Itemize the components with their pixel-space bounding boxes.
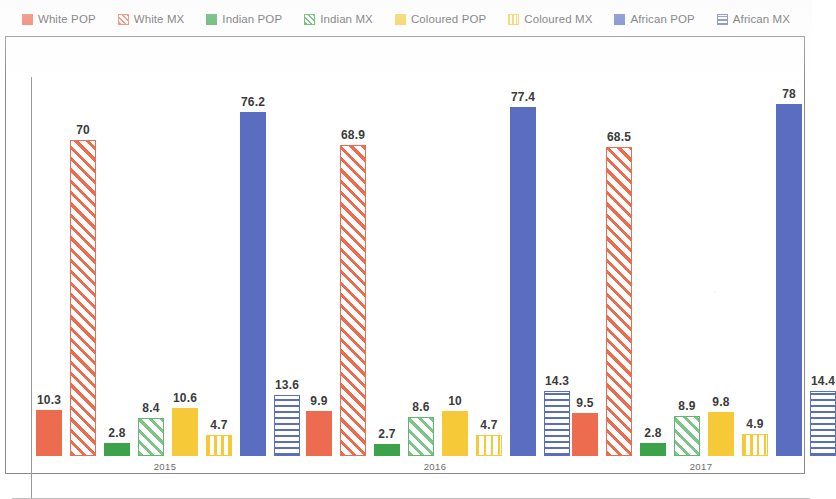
legend-item-indian-pop[interactable]: Indian POP (206, 13, 282, 25)
legend-swatch-solid-orange (22, 14, 33, 25)
bar-rect[interactable] (510, 107, 536, 456)
bar-rect[interactable] (544, 391, 570, 456)
bar-rect[interactable] (572, 413, 598, 456)
legend-item-label: African MX (733, 13, 790, 25)
legend-item-african-pop[interactable]: African POP (614, 13, 694, 25)
bar-coloured-mx-2015[interactable]: 4.7 (206, 36, 232, 456)
bar-coloured-mx-2016[interactable]: 4.7 (476, 36, 502, 456)
bar-indian-pop-2016[interactable]: 2.7 (374, 36, 400, 456)
bar-rect[interactable] (708, 412, 734, 456)
bar-rect[interactable] (674, 416, 700, 456)
bar-value-label: 10 (448, 394, 462, 408)
bar-rect[interactable] (810, 391, 836, 456)
bar-rect[interactable] (374, 444, 400, 456)
bar-rect[interactable] (742, 434, 768, 456)
bar-indian-pop-2015[interactable]: 2.8 (104, 36, 130, 456)
bar-rect[interactable] (104, 443, 130, 456)
bar-white-pop-2015[interactable]: 10.3 (36, 36, 62, 456)
bar-rect[interactable] (476, 435, 502, 456)
bar-rect[interactable] (340, 145, 366, 456)
bar-african-pop-2015[interactable]: 76.2 (240, 36, 266, 456)
y-axis-line (31, 77, 32, 499)
legend-item-indian-mx[interactable]: Indian MX (304, 13, 373, 25)
bar-value-label: 4.7 (210, 418, 227, 432)
bar-white-mx-2015[interactable]: 70 (70, 36, 96, 456)
bar-african-mx-2015[interactable]: 13.6 (274, 36, 300, 456)
legend-swatch-striped-yellow (508, 14, 519, 25)
bar-group-bars: 9.568.52.88.99.84.97814.4 (572, 36, 830, 456)
bar-rect[interactable] (776, 104, 802, 456)
bar-group-bars: 10.3702.88.410.64.776.213.6 (36, 36, 294, 456)
bar-value-label: 76.2 (241, 95, 265, 109)
legend-swatch-solid-yellow (395, 14, 406, 25)
bar-rect[interactable] (306, 411, 332, 456)
legend-item-white-pop[interactable]: White POP (22, 13, 96, 25)
bar-value-label: 4.9 (746, 417, 763, 431)
bar-value-label: 77.4 (511, 90, 535, 104)
bar-african-mx-2016[interactable]: 14.3 (544, 36, 570, 456)
bar-rect[interactable] (442, 411, 468, 456)
bar-value-label: 68.9 (341, 128, 365, 142)
bar-african-pop-2016[interactable]: 77.4 (510, 36, 536, 456)
legend-item-label: Coloured MX (524, 13, 592, 25)
x-axis-tick-2017: 2017 (572, 461, 830, 472)
bar-value-label: 2.8 (108, 426, 125, 440)
chart-legend: White POPWhite MXIndian POPIndian MXColo… (0, 8, 812, 30)
bar-coloured-pop-2016[interactable]: 10 (442, 36, 468, 456)
bar-white-mx-2017[interactable]: 68.5 (606, 36, 632, 456)
bar-value-label: 2.7 (378, 427, 395, 441)
bar-value-label: 13.6 (275, 378, 299, 392)
bar-value-label: 8.6 (412, 400, 429, 414)
legend-swatch-hatched-orange (118, 14, 129, 25)
x-axis-tick-2015: 2015 (36, 461, 294, 472)
bar-white-pop-2017[interactable]: 9.5 (572, 36, 598, 456)
bar-coloured-pop-2015[interactable]: 10.6 (172, 36, 198, 456)
legend-item-african-mx[interactable]: African MX (717, 13, 790, 25)
legend-swatch-hatched-green (304, 14, 315, 25)
bar-rect[interactable] (274, 395, 300, 456)
bar-indian-mx-2015[interactable]: 8.4 (138, 36, 164, 456)
bar-white-pop-2016[interactable]: 9.9 (306, 36, 332, 456)
bar-value-label: 2.8 (644, 426, 661, 440)
bar-rect[interactable] (206, 435, 232, 456)
bar-african-pop-2017[interactable]: 78 (776, 36, 802, 456)
legend-item-coloured-pop[interactable]: Coloured POP (395, 13, 486, 25)
legend-item-label: Coloured POP (411, 13, 486, 25)
bar-value-label: 8.4 (142, 401, 159, 415)
bar-rect[interactable] (640, 443, 666, 456)
bar-value-label: 9.5 (576, 396, 593, 410)
bar-rect[interactable] (240, 112, 266, 456)
legend-item-label: White MX (134, 13, 185, 25)
bar-coloured-mx-2017[interactable]: 4.9 (742, 36, 768, 456)
legend-item-label: African POP (630, 13, 694, 25)
bar-rect[interactable] (408, 417, 434, 456)
bar-rect[interactable] (36, 410, 62, 456)
bar-rect[interactable] (172, 408, 198, 456)
bar-indian-pop-2017[interactable]: 2.8 (640, 36, 666, 456)
bar-indian-mx-2017[interactable]: 8.9 (674, 36, 700, 456)
bar-group-2017: 9.568.52.88.99.84.97814.42017 (572, 36, 830, 456)
bar-value-label: 78 (782, 87, 796, 101)
legend-swatch-solid-green (206, 14, 217, 25)
bar-group-bars: 9.968.92.78.6104.777.414.3 (306, 36, 564, 456)
bar-coloured-pop-2017[interactable]: 9.8 (708, 36, 734, 456)
bar-value-label: 68.5 (607, 130, 631, 144)
bar-rect[interactable] (70, 140, 96, 456)
bar-value-label: 9.8 (712, 395, 729, 409)
bar-african-mx-2017[interactable]: 14.4 (810, 36, 836, 456)
bar-white-mx-2016[interactable]: 68.9 (340, 36, 366, 456)
bar-group-2016: 9.968.92.78.6104.777.414.32016 (306, 36, 564, 456)
plot-area: 10.3702.88.410.64.776.213.620159.968.92.… (5, 36, 805, 474)
legend-item-white-mx[interactable]: White MX (118, 13, 185, 25)
legend-item-label: Indian POP (222, 13, 282, 25)
legend-swatch-solid-blue (614, 14, 625, 25)
bar-rect[interactable] (606, 147, 632, 456)
bar-group-2015: 10.3702.88.410.64.776.213.62015 (36, 36, 294, 456)
bar-value-label: 10.3 (37, 393, 61, 407)
bar-indian-mx-2016[interactable]: 8.6 (408, 36, 434, 456)
bar-rect[interactable] (138, 418, 164, 456)
bar-value-label: 14.4 (811, 374, 835, 388)
x-axis-tick-2016: 2016 (306, 461, 564, 472)
legend-item-coloured-mx[interactable]: Coloured MX (508, 13, 592, 25)
